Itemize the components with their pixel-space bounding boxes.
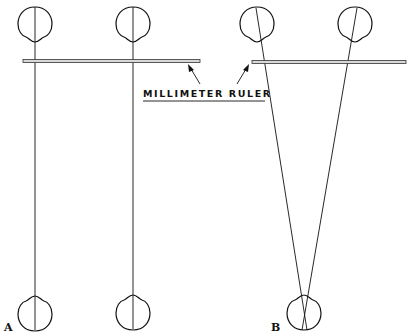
- millimeter-ruler-a: [23, 60, 200, 63]
- diagram-canvas: A B MILLIMETER RULER: [0, 0, 411, 335]
- sight-line-b-left: [256, 8, 307, 330]
- arrowhead-b-icon: [243, 64, 249, 72]
- panel-letter-b: B: [271, 321, 280, 334]
- panel-a: A: [3, 7, 200, 334]
- ruler-annotation: MILLIMETER RULER: [143, 64, 272, 101]
- arrowhead-a-icon: [188, 64, 194, 72]
- millimeter-ruler-b: [252, 61, 406, 64]
- panel-letter-a: A: [3, 321, 13, 334]
- arrow-to-ruler-a: [191, 69, 200, 84]
- arrow-to-ruler-b: [237, 69, 246, 84]
- panel-b: B: [240, 7, 406, 334]
- sight-line-b-right: [302, 8, 357, 330]
- millimeter-ruler-label: MILLIMETER RULER: [143, 88, 272, 99]
- eye-top-right-b: [338, 7, 372, 42]
